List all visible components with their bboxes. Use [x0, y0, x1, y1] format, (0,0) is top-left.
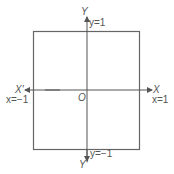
y-axis-neg-label: Y': [79, 160, 88, 170]
bottom-line-label: y=−1: [90, 149, 112, 159]
top-line-label: y=1: [89, 18, 105, 28]
y-axis-label: Y: [81, 7, 88, 17]
origin-label: O: [78, 93, 86, 103]
left-line-label: x=−1: [6, 95, 28, 105]
right-line-label: x=1: [152, 95, 168, 105]
coordinate-diagram: [0, 0, 174, 174]
